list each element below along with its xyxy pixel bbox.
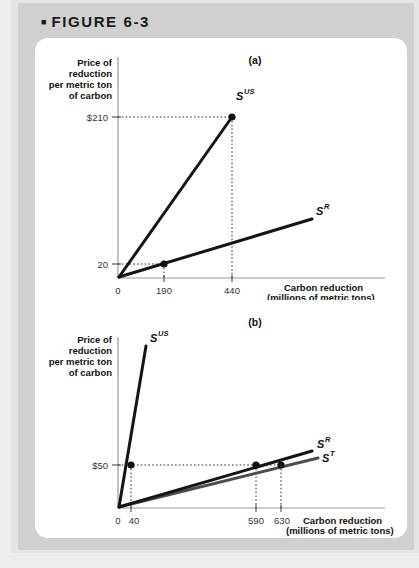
x-tick-label-40: 40 bbox=[129, 515, 140, 526]
data-point-r-590 bbox=[252, 461, 259, 468]
y-axis-label-b-line3: per metric ton bbox=[49, 356, 113, 367]
data-point-t-630 bbox=[277, 461, 284, 468]
x-tick-label-590: 590 bbox=[248, 515, 264, 526]
curve-label-r-b-base: S bbox=[317, 438, 325, 450]
figure-title-text: FIGURE 6-3 bbox=[51, 13, 150, 30]
x-tick-label-0: 0 bbox=[115, 285, 120, 296]
supply-curve-us-b bbox=[119, 346, 146, 507]
x-tick-label-b-0: 0 bbox=[115, 515, 120, 526]
y-tick-label-210: $210 bbox=[87, 112, 108, 123]
y-axis-label-line4: of carbon bbox=[69, 90, 112, 101]
supply-curve-us-a bbox=[119, 117, 232, 277]
curve-label-r-a-base: S bbox=[316, 205, 324, 217]
figure-page: ■FIGURE 6-3 (a) Price of reduction per m… bbox=[0, 0, 419, 568]
chart-panel-a: (a) Price of reduction per metric ton of… bbox=[35, 38, 407, 300]
x-axis-label-line2-a: (millions of metric tons) bbox=[267, 292, 375, 300]
x-tick-label-190: 190 bbox=[156, 285, 172, 296]
panel-label-a: (a) bbox=[249, 54, 262, 66]
curve-label-us-b-sup: US bbox=[158, 329, 168, 338]
chart-panel-b: (b) Price of reduction per metric ton of… bbox=[35, 300, 407, 538]
figure-title: ■FIGURE 6-3 bbox=[41, 13, 150, 30]
curve-label-us-b-base: S bbox=[150, 332, 158, 344]
curve-label-us-a-sup: US bbox=[244, 87, 254, 96]
supply-curve-r-b bbox=[119, 451, 312, 507]
curve-label-t-b-base: S bbox=[322, 452, 330, 464]
y-axis-label-line3: per metric ton bbox=[49, 79, 113, 90]
curve-label-r-b-sup: R bbox=[325, 435, 331, 444]
panel-label-b: (b) bbox=[248, 316, 261, 328]
curve-label-r-a-sup: R bbox=[324, 202, 330, 211]
data-point-r-20 bbox=[160, 260, 167, 267]
x-axis-label-line2-b: (millions of metric tons) bbox=[286, 525, 394, 536]
supply-curve-r-a bbox=[119, 219, 312, 277]
curve-label-us-a-base: S bbox=[236, 90, 244, 102]
y-axis-label-b-line1: Price of bbox=[77, 334, 113, 345]
y-axis-label-line2: reduction bbox=[69, 68, 112, 79]
y-tick-label-20: 20 bbox=[97, 259, 108, 270]
y-axis-label-b-line4: of carbon bbox=[69, 367, 112, 378]
y-axis-label-b-line2: reduction bbox=[69, 345, 112, 356]
square-bullet-icon: ■ bbox=[41, 17, 46, 27]
y-tick-label-50: $50 bbox=[92, 460, 108, 471]
y-axis-label-line1: Price of bbox=[77, 57, 113, 68]
data-point-us-50 bbox=[127, 461, 134, 468]
x-tick-label-440: 440 bbox=[224, 285, 240, 296]
curve-label-t-b-sup: T bbox=[330, 449, 336, 458]
data-point-us-210 bbox=[228, 113, 235, 120]
